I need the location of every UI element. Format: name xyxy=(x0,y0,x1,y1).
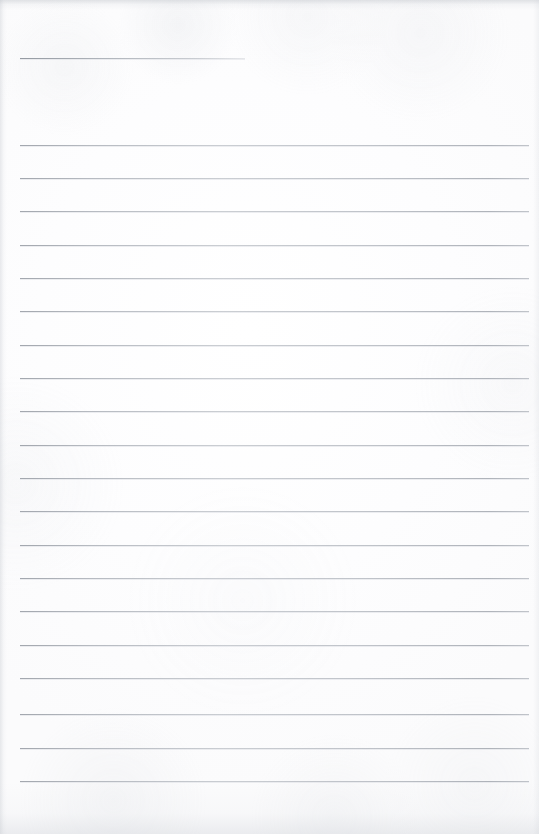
ruled-line-3 xyxy=(20,211,529,212)
ruled-line-5 xyxy=(20,278,529,279)
ruled-line-8 xyxy=(20,378,529,379)
ruled-line-9 xyxy=(20,411,529,412)
ruled-line-7 xyxy=(20,345,529,346)
ruled-line-18 xyxy=(20,714,529,715)
ruled-line-15 xyxy=(20,611,529,612)
ruled-line-20 xyxy=(20,781,529,782)
ruled-line-17 xyxy=(20,678,529,679)
header-rule xyxy=(20,58,245,59)
ruled-line-16 xyxy=(20,645,529,646)
ruled-line-14 xyxy=(20,578,529,579)
ruled-line-11 xyxy=(20,478,529,479)
ruled-line-6 xyxy=(20,311,529,312)
ruled-line-19 xyxy=(20,748,529,749)
paper-sheet xyxy=(0,0,539,834)
scanned-page xyxy=(0,0,539,834)
ruled-line-12 xyxy=(20,511,529,512)
ruled-line-10 xyxy=(20,445,529,446)
ruled-line-4 xyxy=(20,245,529,246)
ruled-line-13 xyxy=(20,545,529,546)
ruled-line-2 xyxy=(20,178,529,179)
ruled-line-1 xyxy=(20,145,529,146)
